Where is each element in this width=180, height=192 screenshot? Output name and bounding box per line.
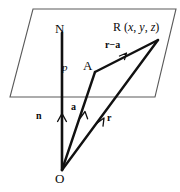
label-vector-a: a [71, 102, 76, 112]
label-coord-y: y [139, 20, 144, 34]
label-point-r: R [113, 20, 121, 34]
vector-r-arrow [62, 40, 158, 170]
vector-a-arrow [62, 72, 95, 170]
vector-plane-diagram: N A O R (x, y, z) p n a r r−a [0, 0, 180, 192]
label-scalar-p: p [62, 62, 68, 73]
label-vector-r-minus-a: r−a [105, 40, 120, 50]
label-point-o: O [55, 172, 64, 185]
label-coord-z: z [151, 20, 156, 34]
label-coord-x: x [128, 20, 133, 34]
label-vector-n: n [36, 111, 42, 121]
label-vector-r: r [107, 113, 111, 123]
label-point-r-with-coordinates: R (x, y, z) [113, 21, 159, 33]
label-point-a: A [83, 59, 92, 72]
label-point-n: N [55, 22, 64, 35]
